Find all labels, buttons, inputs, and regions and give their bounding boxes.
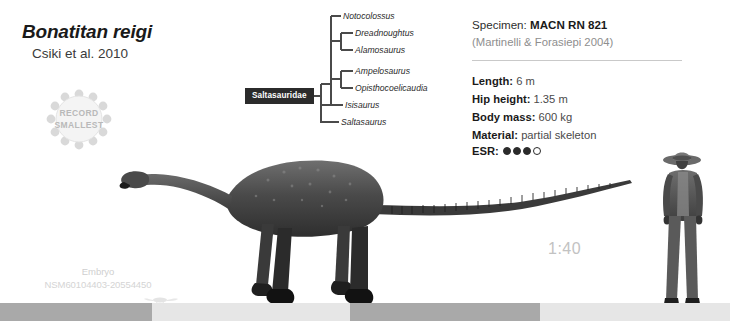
infographic-root: Bonatitan reigi Csiki et al. 2010 RECORD…: [0, 0, 730, 321]
taxon-name: Bonatitan reigi: [22, 22, 252, 43]
clado-taxon-dreadnoughtus: Dreadnoughtus: [355, 29, 414, 38]
badge-rosette-icon: [42, 88, 116, 150]
specimen-row-hip-height-value: 1.35 m: [534, 93, 568, 105]
specimen-row-hip-height: Hip height: 1.35 m: [472, 90, 712, 108]
cladogram: Saltasauridae Notocolossus Dreadnoughtus…: [243, 12, 458, 130]
embryo-caption: Embryo NSM60104403-20554450: [8, 266, 188, 292]
record-badge: RECORD SMALLEST: [42, 88, 116, 150]
clado-taxon-isisaurus: Isisaurus: [345, 101, 379, 110]
specimen-reference: (Martinelli & Forasiepi 2004): [472, 35, 712, 49]
specimen-row-material: Material: partial skeleton: [472, 126, 712, 144]
ground-segment-2: [152, 303, 350, 321]
scale-ratio-label: 1:40: [548, 240, 581, 258]
clado-taxon-alamosaurus: Alamosaurus: [355, 46, 405, 55]
specimen-row-body-mass-value: 600 kg: [539, 111, 573, 123]
specimen-row-length-label: Length:: [472, 75, 513, 87]
clado-taxon-opisthocoelicaudia: Opisthocoelicaudia: [355, 84, 428, 93]
clade-box-saltasauridae: Saltasauridae: [245, 88, 314, 104]
specimen-panel: Specimen: MACN RN 821 (Martinelli & Fora…: [472, 18, 712, 157]
clado-taxon-saltasaurus: Saltasaurus: [341, 118, 386, 127]
badge-smallest-label: SMALLEST: [42, 120, 116, 130]
specimen-row-body-mass: Body mass: 600 kg: [472, 108, 712, 126]
ground-segment-1: [0, 303, 152, 321]
specimen-row-material-value: partial skeleton: [521, 129, 596, 141]
esr-dot-4: [533, 147, 541, 155]
badge-record-label: RECORD: [42, 108, 116, 118]
specimen-row-body-mass-label: Body mass:: [472, 111, 535, 123]
specimen-label: Specimen:: [472, 18, 527, 31]
sauropod-silhouette: [120, 160, 632, 304]
ground-segment-4: [540, 303, 730, 321]
specimen-row-hip-height-label: Hip height:: [472, 93, 530, 105]
esr-label: ESR:: [472, 145, 499, 157]
specimen-title: Specimen: MACN RN 821: [472, 18, 712, 32]
embryo-caption-id: NSM60104403-20554450: [8, 279, 188, 292]
taxon-authority: Csiki et al. 2010: [22, 46, 252, 62]
esr-dot-2: [513, 147, 521, 155]
cladogram-tree-lines: [243, 12, 458, 132]
specimen-row-length-value: 6 m: [516, 75, 535, 87]
clado-taxon-notocolossus: Notocolossus: [343, 12, 395, 21]
esr-dot-1: [503, 147, 511, 155]
ground-scale-bar: [0, 303, 730, 321]
specimen-row-length: Length: 6 m: [472, 72, 712, 90]
esr-rating: ESR:: [472, 145, 712, 157]
esr-dot-3: [523, 147, 531, 155]
clado-taxon-ampelosaurus: Ampelosaurus: [355, 67, 410, 76]
embryo-caption-title: Embryo: [8, 266, 188, 279]
specimen-row-material-label: Material:: [472, 129, 518, 141]
title-block: Bonatitan reigi Csiki et al. 2010: [22, 22, 252, 62]
ground-segment-3: [350, 303, 540, 321]
specimen-divider: [472, 60, 682, 61]
specimen-id: MACN RN 821: [530, 18, 607, 31]
human-scale-figure: [663, 153, 703, 305]
